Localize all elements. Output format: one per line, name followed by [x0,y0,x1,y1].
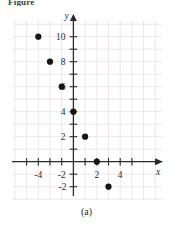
plot-svg: 10 8 6 4 2 -2 -4 -2 2 4 y x [0,0,173,210]
data-point [105,184,111,190]
data-point [35,34,41,40]
data-point [59,84,65,90]
x-tick-label-2: 2 [94,170,99,180]
x-tick-label-4: 4 [118,170,123,180]
y-axis-label: y [63,11,69,21]
y-tick-label-10: 10 [56,32,66,42]
y-tick-label-2: 2 [61,132,66,142]
y-tick-label-8: 8 [61,57,66,67]
x-axis-arrow [155,158,163,165]
x-axis-label: x [155,167,161,177]
data-point [47,59,53,65]
x-tick-label-neg2: -2 [58,170,66,180]
data-point [82,134,88,140]
y-tick-label-neg2: -2 [59,182,67,192]
y-tick-label-4: 4 [61,107,66,117]
data-point [70,109,76,115]
x-tick-label-neg4: -4 [34,170,42,180]
y-axis-arrow [70,14,77,21]
figure-caption: (a) [0,206,173,217]
data-point [94,159,100,165]
scatter-plot: 10 8 6 4 2 -2 -4 -2 2 4 y x [0,0,173,210]
